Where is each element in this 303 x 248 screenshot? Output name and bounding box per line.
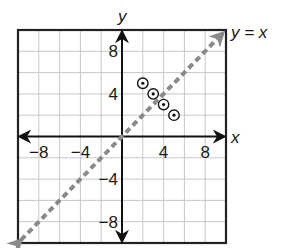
x-tick-label: 4 (159, 143, 168, 162)
y-tick-label: 8 (109, 42, 118, 61)
y-axis-label: y (117, 7, 128, 26)
x-axis-label: x (230, 128, 240, 147)
line-label: y = x (230, 23, 268, 42)
x-tick-label: −8 (29, 143, 48, 162)
data-point (158, 99, 168, 109)
data-point (138, 78, 148, 88)
x-tick-label: −4 (71, 143, 90, 162)
coordinate-plane: −8−44884−4−8 x y y = x (0, 0, 303, 248)
y-tick-label: −4 (99, 170, 118, 189)
y-tick-label: 4 (109, 85, 118, 104)
x-tick-label: 8 (200, 143, 209, 162)
data-point (169, 110, 179, 120)
y-tick-label: −8 (99, 213, 118, 232)
data-point (148, 89, 158, 99)
